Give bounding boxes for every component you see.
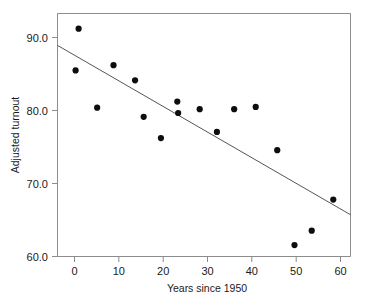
data-point <box>141 114 147 120</box>
data-point <box>197 106 203 112</box>
data-point <box>72 67 78 73</box>
x-tick-label: 20 <box>157 265 169 277</box>
y-tick-label: 70.0 <box>27 178 48 190</box>
data-point <box>231 106 237 112</box>
plot-area: 90.0 80.0 70.0 60.0 0 10 20 30 40 50 60 … <box>0 0 373 300</box>
y-axis-ticks <box>52 38 58 257</box>
x-axis-tick-labels: 0 10 20 30 40 50 60 <box>71 265 346 277</box>
trend-line <box>58 45 351 214</box>
y-axis-title: Adjusted turnout <box>9 97 21 174</box>
x-axis-ticks <box>75 257 341 263</box>
data-point <box>158 135 164 141</box>
x-axis-title: Years since 1950 <box>167 282 247 294</box>
data-point <box>253 104 259 110</box>
x-tick-label: 50 <box>290 265 302 277</box>
x-tick-label: 10 <box>113 265 125 277</box>
y-axis-tick-labels: 90.0 80.0 70.0 60.0 <box>27 32 48 263</box>
plot-frame <box>58 14 351 257</box>
data-point <box>291 242 297 248</box>
x-tick-label: 40 <box>246 265 258 277</box>
data-point <box>175 110 181 116</box>
data-point <box>110 62 116 68</box>
y-tick-label: 90.0 <box>27 32 48 44</box>
scatter-chart: 90.0 80.0 70.0 60.0 0 10 20 30 40 50 60 … <box>0 0 373 300</box>
y-tick-label: 80.0 <box>27 105 48 117</box>
data-point <box>174 98 180 104</box>
data-point <box>330 196 336 202</box>
data-point <box>76 26 82 32</box>
x-tick-label: 60 <box>334 265 346 277</box>
x-tick-label: 30 <box>201 265 213 277</box>
x-tick-label: 0 <box>71 265 77 277</box>
data-point <box>214 129 220 135</box>
y-tick-label: 60.0 <box>27 251 48 263</box>
data-point <box>309 228 315 234</box>
data-point <box>94 105 100 111</box>
data-point <box>132 77 138 83</box>
data-points-group <box>72 26 336 249</box>
data-point <box>274 147 280 153</box>
frame-border <box>58 14 351 257</box>
